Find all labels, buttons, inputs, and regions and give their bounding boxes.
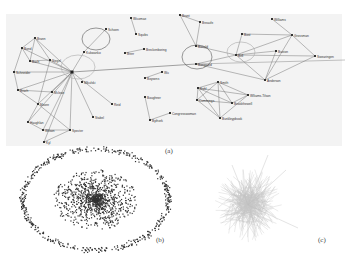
panel-c-hairball: [0, 0, 349, 262]
panel-a-caption: (a): [165, 147, 173, 155]
panel-c-caption: (c): [318, 236, 326, 244]
panel-b-caption: (b): [156, 236, 164, 244]
figure: BrannBondBachSiegelSchneiderBrachMcleanM…: [0, 0, 349, 262]
